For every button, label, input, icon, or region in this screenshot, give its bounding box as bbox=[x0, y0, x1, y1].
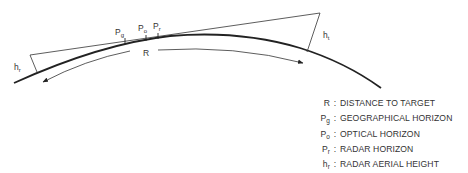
target-height-label: ht bbox=[323, 30, 330, 41]
legend-symbol: Pr bbox=[316, 143, 330, 158]
legend-item-geographical-horizon: Pg : GEOGRAPHICAL HORIZON bbox=[316, 112, 452, 127]
radar-ray-line bbox=[30, 13, 320, 55]
legend-item-radar-horizon: Pr : RADAR HORIZON bbox=[316, 143, 452, 158]
legend-description: RADAR HORIZON bbox=[340, 143, 413, 158]
legend-description: RADAR AERIAL HEIGHT bbox=[340, 158, 439, 173]
geographical-horizon-label: Pg bbox=[115, 27, 124, 38]
radar-aerial-height-label: hr bbox=[14, 62, 21, 73]
radar-horizon-label: Pr bbox=[153, 21, 161, 32]
legend-item-distance: R : DISTANCE TO TARGET bbox=[316, 97, 452, 112]
legend-separator: : bbox=[330, 112, 340, 127]
legend-symbol: R bbox=[316, 97, 330, 112]
legend-item-optical-horizon: Po : OPTICAL HORIZON bbox=[316, 128, 452, 143]
legend-symbol: Pg bbox=[316, 112, 330, 127]
legend-description: DISTANCE TO TARGET bbox=[340, 97, 435, 112]
legend: R : DISTANCE TO TARGET Pg : GEOGRAPHICAL… bbox=[316, 97, 452, 173]
distance-label: R bbox=[143, 48, 149, 58]
legend-description: OPTICAL HORIZON bbox=[340, 128, 420, 143]
radar-aerial-height-line bbox=[30, 55, 37, 72]
legend-symbol: Po bbox=[316, 128, 330, 143]
legend-separator: : bbox=[330, 143, 340, 158]
optical-horizon-label: Po bbox=[138, 23, 148, 34]
legend-separator: : bbox=[330, 158, 340, 173]
legend-description: GEOGRAPHICAL HORIZON bbox=[340, 112, 452, 127]
legend-separator: : bbox=[330, 97, 340, 112]
legend-separator: : bbox=[330, 128, 340, 143]
target-height-line bbox=[307, 13, 320, 52]
distance-arrow-right bbox=[158, 49, 303, 63]
legend-symbol: hr bbox=[316, 158, 330, 173]
earth-surface-arc bbox=[14, 35, 381, 89]
legend-item-radar-aerial-height: hr : RADAR AERIAL HEIGHT bbox=[316, 158, 452, 173]
